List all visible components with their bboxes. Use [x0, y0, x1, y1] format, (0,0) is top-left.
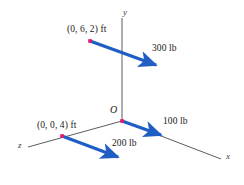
force-100-lb-vector: [122, 121, 161, 135]
point-label-0-6-2: (0, 6, 2) ft: [67, 25, 106, 35]
origin-marker: [120, 119, 124, 123]
axis-label-y: y: [123, 8, 127, 17]
force-diagram-figure: y x z O (0, 6, 2) ft (0, 0, 4) ft 300 lb…: [0, 0, 244, 185]
point-0-6-2-marker: [88, 39, 92, 43]
force-label-200-lb: 200 lb: [112, 139, 137, 149]
point-0-0-4-marker: [60, 134, 64, 138]
force-label-300-lb: 300 lb: [152, 44, 177, 54]
axis-label-x: x: [226, 152, 230, 161]
force-300-lb-vector: [90, 41, 156, 65]
point-label-0-0-4: (0, 0, 4) ft: [37, 121, 76, 131]
origin-label: O: [110, 105, 117, 115]
force-label-100-lb: 100 lb: [163, 117, 188, 127]
axis-label-z: z: [18, 141, 22, 150]
force-200-lb-vector: [62, 136, 118, 157]
diagram-canvas: [0, 0, 244, 185]
